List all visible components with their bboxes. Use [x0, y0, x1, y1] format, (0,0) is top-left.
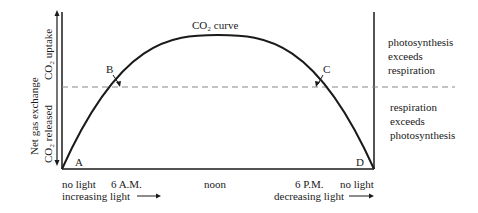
y-axis-arrow: [55, 10, 60, 166]
y-axis-label: Net gas exchange: [28, 77, 40, 155]
point-c: C: [323, 63, 330, 76]
point-a: A: [75, 156, 83, 169]
region-below-label: respiration exceeds photosynthesis: [390, 100, 455, 142]
curve-title: CO₂ curve: [192, 19, 238, 32]
increasing-light-label: increasing light: [62, 190, 130, 203]
point-b: B: [106, 63, 113, 76]
co2-curve: [62, 35, 374, 169]
point-d: D: [356, 156, 364, 169]
x-label-noon: noon: [204, 178, 226, 191]
x-label-end: no light: [340, 178, 374, 191]
increasing-arrow: [137, 194, 161, 199]
decreasing-arrow: [349, 194, 374, 199]
decreasing-light-label: decreasing light: [274, 190, 344, 203]
region-above-label: photosynthesis exceeds respiration: [388, 35, 453, 77]
co2-uptake-label: CO₂ uptake: [42, 29, 54, 80]
co2-released-label: CO₂ released: [42, 105, 54, 163]
